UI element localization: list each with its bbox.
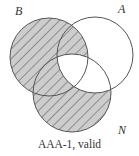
shaded-region (10, 18, 111, 132)
set-label-n: N (118, 124, 126, 136)
diagram-caption: AAA-1, valid (0, 139, 139, 151)
set-label-a: A (118, 3, 125, 15)
set-label-b: B (15, 5, 22, 17)
